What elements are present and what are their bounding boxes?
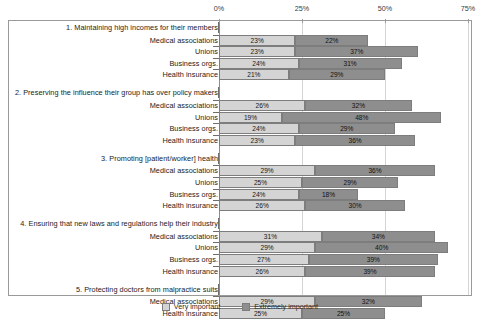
bar-segment-value-label: 26% bbox=[220, 267, 304, 276]
bar-segment-very-important: 31% bbox=[219, 231, 322, 242]
bar-segment-extremely-important: 18% bbox=[299, 189, 359, 200]
bar-segment-very-important: 26% bbox=[219, 266, 305, 277]
bar-row-label: Business orgs. bbox=[169, 58, 218, 69]
stacked-bar: 29%40% bbox=[219, 242, 448, 253]
chart-group-heading-row: 4. Ensuring that new laws and regulation… bbox=[0, 218, 480, 229]
legend-swatch-extremely-important bbox=[242, 303, 250, 311]
bar-segment-extremely-important: 32% bbox=[305, 100, 411, 111]
bar-row-label: Business orgs. bbox=[169, 189, 218, 200]
bar-segment-value-label: 23% bbox=[220, 136, 294, 145]
stacked-bar: 26%30% bbox=[219, 200, 405, 211]
legend-item-extremely-important: Extremely important bbox=[242, 302, 318, 311]
bar-segment-very-important: 29% bbox=[219, 165, 315, 176]
bar-segment-extremely-important: 36% bbox=[315, 165, 435, 176]
bar-row-label: Unions bbox=[195, 242, 218, 253]
chart-bar-row: Business orgs.27%39% bbox=[0, 254, 480, 265]
bar-segment-value-label: 21% bbox=[220, 70, 288, 79]
chart-bar-row: Medical associations29%36% bbox=[0, 165, 480, 176]
bar-segment-value-label: 29% bbox=[220, 166, 314, 175]
stacked-bar: 23%36% bbox=[219, 135, 415, 146]
bar-row-label: Medical associations bbox=[150, 100, 218, 111]
chart-group-heading-row: 3. Promoting [patient/worker] health bbox=[0, 153, 480, 164]
chart-bar-row: Unions19%48% bbox=[0, 112, 480, 123]
stacked-bar: 23%22% bbox=[219, 35, 368, 46]
stacked-bar: 24%18% bbox=[219, 189, 358, 200]
bar-segment-very-important: 24% bbox=[219, 58, 299, 69]
bar-segment-extremely-important: 39% bbox=[305, 266, 434, 277]
bar-segment-very-important: 29% bbox=[219, 242, 315, 253]
bar-segment-value-label: 34% bbox=[323, 232, 434, 241]
bar-row-label: Unions bbox=[195, 112, 218, 123]
x-axis-tick-label: 75% bbox=[461, 4, 476, 13]
chart-group-heading-row: 2. Preserving the influence their group … bbox=[0, 87, 480, 98]
chart-bar-row: Health insurance23%36% bbox=[0, 135, 480, 146]
bar-segment-extremely-important: 36% bbox=[295, 135, 415, 146]
bar-segment-value-label: 29% bbox=[220, 243, 314, 252]
chart-bar-row: Medical associations31%34% bbox=[0, 231, 480, 242]
group-axis-tick bbox=[218, 22, 219, 33]
x-axis-tick-labels: 0%25%50%75% bbox=[0, 4, 480, 18]
chart-bar-row: Unions25%29% bbox=[0, 177, 480, 188]
bar-segment-value-label: 29% bbox=[290, 70, 384, 79]
stacked-bar: 26%32% bbox=[219, 100, 412, 111]
bar-row-label: Health insurance bbox=[162, 135, 218, 146]
chart-rows: 1. Maintaining high incomes for their me… bbox=[0, 20, 480, 296]
chart-bar-row: Health insurance26%39% bbox=[0, 266, 480, 277]
bar-segment-value-label: 29% bbox=[300, 124, 394, 133]
bar-segment-very-important: 19% bbox=[219, 112, 282, 123]
bar-segment-very-important: 23% bbox=[219, 46, 295, 57]
bar-segment-extremely-important: 37% bbox=[295, 46, 418, 57]
chart-bar-row: Business orgs.24%18% bbox=[0, 189, 480, 200]
bar-row-label: Unions bbox=[195, 46, 218, 57]
chart-group-heading-row: 5. Protecting doctors from malpractice s… bbox=[0, 284, 480, 295]
chart-bar-row: Medical associations26%32% bbox=[0, 100, 480, 111]
bar-segment-value-label: 24% bbox=[220, 59, 298, 68]
chart-group-label: 3. Promoting [patient/worker] health bbox=[101, 153, 218, 164]
bar-segment-value-label: 36% bbox=[296, 136, 414, 145]
bar-segment-extremely-important: 39% bbox=[309, 254, 438, 265]
chart-bar-row: Health insurance26%30% bbox=[0, 200, 480, 211]
bar-segment-very-important: 23% bbox=[219, 135, 295, 146]
chart-group-label: 4. Ensuring that new laws and regulation… bbox=[20, 218, 218, 229]
bar-segment-value-label: 29% bbox=[303, 178, 397, 187]
bar-segment-extremely-important: 48% bbox=[282, 112, 441, 123]
bar-segment-very-important: 26% bbox=[219, 200, 305, 211]
bar-row-label: Business orgs. bbox=[169, 123, 218, 134]
bar-segment-extremely-important: 31% bbox=[299, 58, 402, 69]
bar-segment-very-important: 24% bbox=[219, 123, 299, 134]
bar-segment-very-important: 24% bbox=[219, 189, 299, 200]
bar-row-label: Health insurance bbox=[162, 200, 218, 211]
x-axis-tick-label: 0% bbox=[214, 4, 225, 13]
bar-segment-value-label: 39% bbox=[310, 255, 437, 264]
bar-segment-value-label: 31% bbox=[300, 59, 401, 68]
group-axis-tick bbox=[218, 87, 219, 98]
group-axis-tick bbox=[218, 284, 219, 295]
bar-segment-extremely-important: 22% bbox=[295, 35, 368, 46]
stacked-bar: 27%39% bbox=[219, 254, 438, 265]
group-axis-tick bbox=[218, 153, 219, 164]
bar-segment-value-label: 26% bbox=[220, 101, 304, 110]
bar-segment-very-important: 27% bbox=[219, 254, 309, 265]
bar-segment-value-label: 22% bbox=[296, 36, 367, 45]
bar-segment-value-label: 24% bbox=[220, 190, 298, 199]
bar-segment-extremely-important: 29% bbox=[299, 123, 395, 134]
chart-group-label: 2. Preserving the influence their group … bbox=[15, 87, 218, 98]
bar-row-label: Health insurance bbox=[162, 266, 218, 277]
bar-segment-value-label: 31% bbox=[220, 232, 321, 241]
chart-bar-row: Medical associations23%22% bbox=[0, 35, 480, 46]
bar-row-label: Medical associations bbox=[150, 231, 218, 242]
stacked-bar: 23%37% bbox=[219, 46, 418, 57]
bar-segment-very-important: 21% bbox=[219, 69, 289, 80]
chart-bar-row: Unions23%37% bbox=[0, 46, 480, 57]
bar-segment-very-important: 26% bbox=[219, 100, 305, 111]
legend-label-extremely-important: Extremely important bbox=[254, 302, 318, 311]
bar-segment-value-label: 24% bbox=[220, 124, 298, 133]
bar-segment-extremely-important: 40% bbox=[315, 242, 448, 253]
bar-segment-value-label: 36% bbox=[316, 166, 434, 175]
chart-group-label: 1. Maintaining high incomes for their me… bbox=[66, 22, 218, 33]
chart-bar-row: Business orgs.24%29% bbox=[0, 123, 480, 134]
bar-segment-value-label: 26% bbox=[220, 201, 304, 210]
chart-group-label: 5. Protecting doctors from malpractice s… bbox=[76, 284, 218, 295]
bar-segment-value-label: 27% bbox=[220, 255, 308, 264]
bar-segment-extremely-important: 30% bbox=[305, 200, 405, 211]
